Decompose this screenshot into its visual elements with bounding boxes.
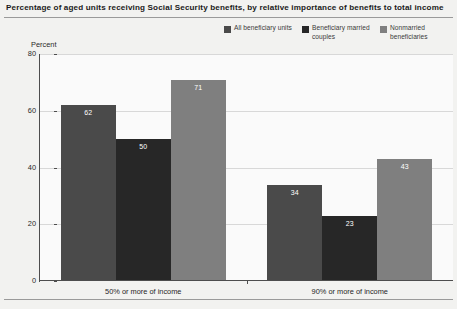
- gridline: [40, 54, 453, 55]
- bar: 34: [267, 185, 322, 281]
- y-tick-mark: [54, 111, 57, 112]
- y-tick-label: 40: [20, 163, 36, 172]
- bar: 23: [322, 216, 377, 281]
- bar-value-label: 71: [171, 84, 226, 91]
- x-category-label: 50% or more of income: [40, 287, 247, 296]
- title-divider: [4, 17, 453, 18]
- y-axis-ticks: 020406080: [18, 54, 36, 281]
- legend-item-label: Beneficiary married couples: [312, 24, 378, 41]
- chart-legend: All beneficiary units Beneficiary marrie…: [224, 25, 456, 47]
- bar: 43: [377, 159, 432, 281]
- bar-value-label: 62: [61, 109, 116, 116]
- y-tick-mark: [54, 54, 57, 55]
- y-tick-label: 0: [20, 276, 36, 285]
- bar-value-label: 23: [322, 220, 377, 227]
- plot-area: 625071342343: [40, 54, 453, 281]
- bar-value-label: 43: [377, 163, 432, 170]
- bar: 71: [171, 80, 226, 281]
- legend-item-label: All beneficiary units: [234, 24, 300, 33]
- bar: 62: [61, 105, 116, 281]
- y-axis-label: Percent: [31, 40, 56, 49]
- bar-value-label: 34: [267, 189, 322, 196]
- bar-value-label: 50: [116, 143, 171, 150]
- y-tick-label: 20: [20, 219, 36, 228]
- page-title: Percentage of aged units receiving Socia…: [6, 3, 444, 12]
- legend-item-label: Nonmarried beneficiaries: [390, 24, 456, 41]
- footer-divider: [4, 299, 453, 300]
- y-tick-label: 80: [20, 49, 36, 58]
- chart-figure: Percentage of aged units receiving Socia…: [0, 0, 457, 309]
- footer-note: [80, 301, 380, 309]
- y-tick-label: 60: [20, 106, 36, 115]
- y-tick-mark: [54, 224, 57, 225]
- y-axis-line: [39, 54, 40, 282]
- legend-swatch-icon: [224, 26, 231, 33]
- y-tick-mark: [54, 168, 57, 169]
- bar: 50: [116, 139, 171, 281]
- x-axis-tick: [247, 281, 248, 284]
- legend-swatch-icon: [380, 26, 387, 33]
- legend-swatch-icon: [302, 26, 309, 33]
- y-tick-mark: [54, 281, 57, 282]
- title-bar: Percentage of aged units receiving Socia…: [0, 0, 457, 18]
- x-category-label: 90% or more of income: [247, 287, 454, 296]
